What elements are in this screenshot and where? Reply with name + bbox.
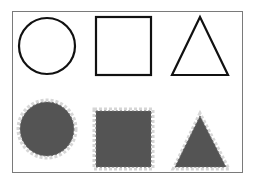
filled-square-icon xyxy=(96,111,151,167)
outline-row xyxy=(19,17,228,75)
outline-square-icon xyxy=(96,17,151,75)
filled-circle-icon xyxy=(20,102,74,156)
filled-row xyxy=(18,100,229,169)
outline-triangle-icon xyxy=(172,17,228,75)
shapes-canvas xyxy=(0,0,256,186)
outline-circle-icon xyxy=(19,18,75,74)
filled-triangle-icon xyxy=(175,116,226,167)
